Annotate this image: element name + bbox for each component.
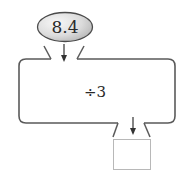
top-funnel-right [77,46,84,59]
input-value: 8.4 [37,16,93,38]
operation-label: ÷3 [70,82,120,102]
bottom-funnel-left [113,123,118,137]
output-arrow-icon [130,117,136,135]
input-arrow-icon [61,44,67,62]
top-funnel-left [44,46,51,59]
bottom-funnel-right [144,123,150,137]
answer-box[interactable] [113,139,151,170]
